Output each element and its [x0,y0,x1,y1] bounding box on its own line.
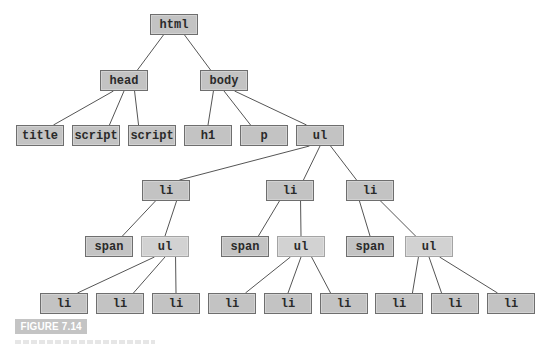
edge-body-h1 [208,91,213,125]
tree-node-li2a: li [208,293,256,314]
tree-node-ul2: ul [277,236,325,257]
tree-node-body: body [200,70,248,91]
edge-ul2-li2a [245,257,290,293]
edge-html-body [185,35,211,70]
tree-node-span3: span [346,236,394,257]
edge-head-script1 [109,91,124,125]
tree-node-li2: li [266,180,314,201]
tree-node-li2b: li [264,293,312,314]
edge-ul2-li2b [288,257,301,293]
edge-ul3-li3b [429,257,442,293]
edge-ul1-li1b [133,257,165,293]
tree-node-li3: li [346,180,394,201]
edge-ul1-li1a [77,257,154,293]
tree-node-head: head [100,70,148,91]
edge-html-head [137,35,163,70]
tree-node-li1b: li [96,293,144,314]
dom-tree-diagram: htmlheadbodytitlescriptscripth1pullilili… [0,0,548,348]
edge-li3-ul3 [381,201,416,236]
tree-node-html: html [150,14,198,35]
edge-body-ul [235,91,307,125]
tree-node-ul: ul [296,125,344,146]
tree-node-script2: script [128,125,176,146]
edge-li2-span2 [258,201,279,236]
tree-node-p: p [240,125,288,146]
figure-label: FIGURE 7.14 [15,319,87,334]
tree-node-ul3: ul [405,236,453,257]
edge-li1-span1 [122,201,155,236]
tree-node-li2c: li [320,293,368,314]
tree-node-title: title [16,125,64,146]
figure-caption [15,340,155,344]
edge-ul3-li3a [412,257,418,293]
tree-node-script1: script [72,125,120,146]
tree-node-li3b: li [431,293,479,314]
tree-node-li1c: li [152,293,200,314]
edge-ul-li2 [303,146,320,180]
edge-li1-ul1 [165,201,177,236]
tree-node-li3a: li [375,293,423,314]
edge-li3-span3 [359,201,370,236]
tree-node-h1: h1 [184,125,232,146]
edge-ul-li1 [179,146,309,180]
tree-node-li1: li [142,180,190,201]
edge-ul3-li3c [440,257,498,293]
edge-ul-li3 [331,146,357,180]
tree-node-span1: span [85,236,133,257]
edge-head-title [53,91,113,125]
tree-node-span2: span [221,236,269,257]
tree-node-li1a: li [40,293,88,314]
edge-head-script2 [135,91,139,125]
tree-node-li3c: li [487,293,535,314]
tree-node-ul1: ul [141,236,189,257]
edge-body-p [224,91,251,125]
edge-ul2-li2c [312,257,331,293]
